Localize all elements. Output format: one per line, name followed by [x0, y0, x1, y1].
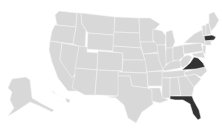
- state-massachusetts[interactable]: [204, 35, 216, 41]
- state-connecticut[interactable]: [205, 41, 211, 45]
- state-hawaii[interactable]: [52, 91, 70, 103]
- state-florida[interactable]: [170, 96, 201, 120]
- state-new-york[interactable]: [184, 30, 205, 45]
- state-washington[interactable]: [55, 11, 77, 27]
- state-mississippi[interactable]: [162, 78, 170, 98]
- state-arkansas[interactable]: [147, 71, 163, 86]
- state-maine[interactable]: [209, 12, 219, 31]
- state-vermont[interactable]: [202, 25, 206, 36]
- state-kansas[interactable]: [122, 60, 147, 73]
- state-north-dakota[interactable]: [114, 17, 140, 33]
- state-new-mexico[interactable]: [95, 70, 120, 96]
- state-michigan[interactable]: [166, 30, 175, 48]
- state-wyoming[interactable]: [87, 33, 114, 51]
- us-map: [0, 0, 222, 131]
- state-alaska[interactable]: [8, 77, 54, 116]
- state-wisconsin[interactable]: [153, 29, 166, 45]
- state-colorado[interactable]: [97, 51, 123, 71]
- state-oregon[interactable]: [50, 25, 76, 44]
- state-south-dakota[interactable]: [113, 32, 141, 48]
